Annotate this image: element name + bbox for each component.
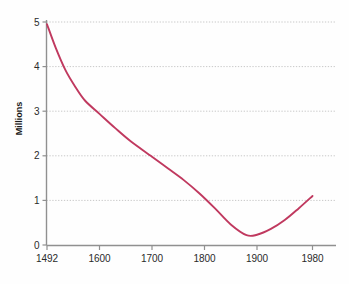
line-chart: 012345 149216001700180019001980 Millions xyxy=(0,0,349,284)
y-tick-label-3: 3 xyxy=(34,106,40,117)
y-tick-label-2: 2 xyxy=(34,150,40,161)
x-tick-label-1980: 1980 xyxy=(301,253,324,264)
x-tick-label-1800: 1800 xyxy=(193,253,216,264)
x-tick-label-1600: 1600 xyxy=(88,253,111,264)
y-tick-label-5: 5 xyxy=(34,17,40,28)
chart-background xyxy=(0,0,349,284)
y-axis-label: Millions xyxy=(14,102,24,136)
chart-container: 012345 149216001700180019001980 Millions xyxy=(0,0,349,284)
x-tick-label-1492: 1492 xyxy=(36,253,59,264)
y-tick-label-0: 0 xyxy=(34,240,40,251)
x-tick-label-1700: 1700 xyxy=(141,253,164,264)
x-tick-label-1900: 1900 xyxy=(246,253,269,264)
y-tick-label-4: 4 xyxy=(34,61,40,72)
y-tick-label-1: 1 xyxy=(34,195,40,206)
